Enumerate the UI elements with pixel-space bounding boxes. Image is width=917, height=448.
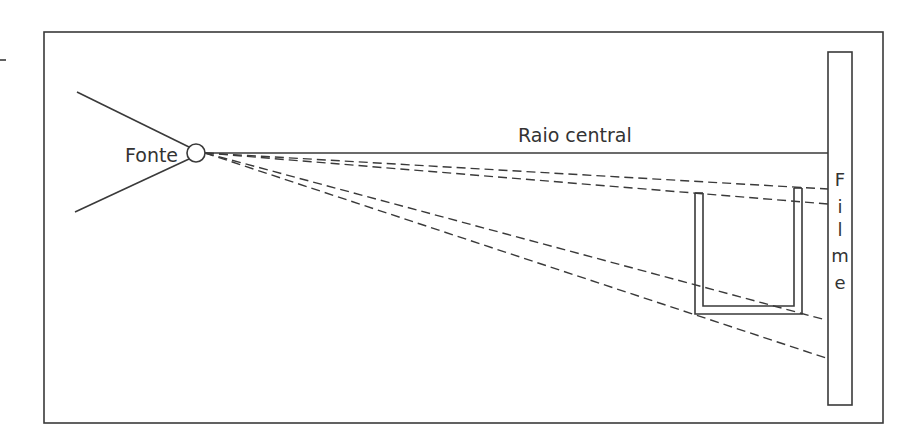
film-label: F i l m e — [831, 169, 849, 293]
projection-ray-2 — [205, 153, 828, 204]
object-outer-wall — [695, 188, 802, 314]
object-inner-wall — [703, 188, 794, 306]
projection-ray-4 — [205, 153, 826, 358]
film-letter-e: e — [834, 272, 845, 293]
film-letter-f: F — [835, 169, 845, 190]
beam-edge-lower — [75, 159, 189, 212]
film-letter-l: l — [837, 219, 842, 240]
film-letter-i: i — [837, 196, 842, 217]
beam-edge-upper — [77, 92, 189, 147]
object — [695, 188, 802, 314]
diagram-frame — [44, 32, 883, 423]
film-letter-m: m — [831, 245, 849, 266]
source-label: Fonte — [125, 144, 178, 166]
diagram-canvas: Fonte Raio central F i l m e — [0, 0, 917, 448]
source-icon — [187, 144, 205, 162]
central-ray-label: Raio central — [518, 124, 632, 146]
